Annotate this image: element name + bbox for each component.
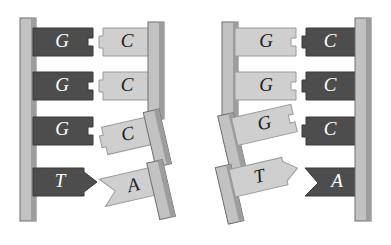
base-block-c1-right[interactable]: C xyxy=(302,28,356,56)
dna-diagram-canvas: G C G C xyxy=(0,0,391,245)
backbone-right-outer xyxy=(355,18,371,221)
base-block-c2-left[interactable]: C xyxy=(99,72,152,100)
base-block-g2-right[interactable]: G xyxy=(235,72,296,100)
base-block-g3-left[interactable]: G xyxy=(33,117,93,145)
base-block-c3-right[interactable]: C xyxy=(302,117,356,145)
base-block-g1-left[interactable]: G xyxy=(33,28,93,56)
base-block-g2-left[interactable]: G xyxy=(33,72,93,100)
base-block-c1-left[interactable]: C xyxy=(99,28,152,56)
dna-base-pair-figure: G C G C xyxy=(0,0,391,245)
base-block-c2-right[interactable]: C xyxy=(302,72,356,100)
base-block-g1-right[interactable]: G xyxy=(235,28,296,56)
backbone-left-inner-top xyxy=(148,22,164,119)
